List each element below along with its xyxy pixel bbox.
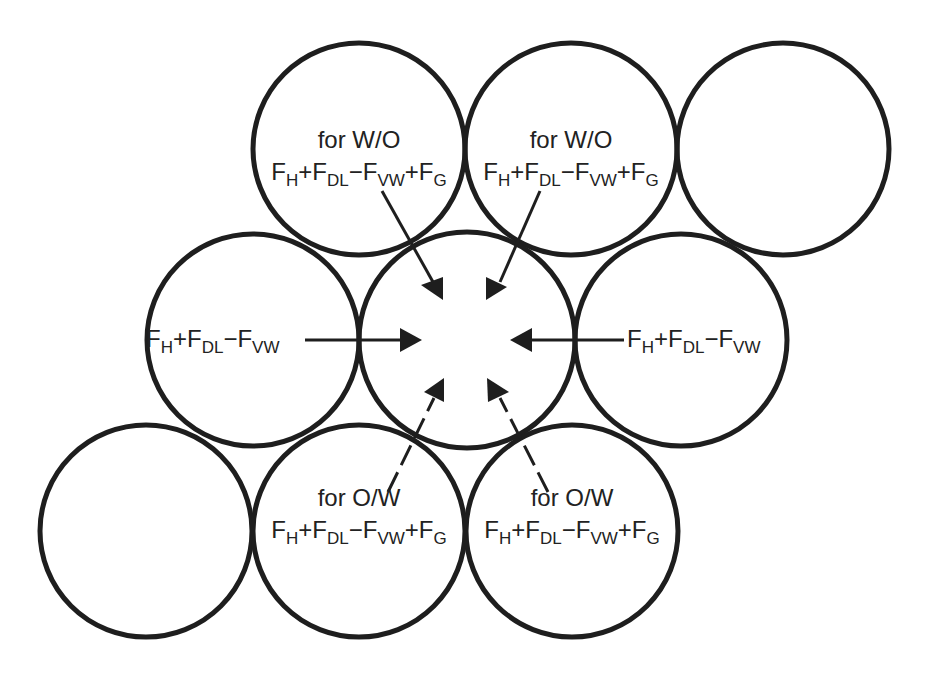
- formula-symbol: F: [363, 516, 378, 543]
- formula-subscript: DL: [327, 529, 349, 548]
- formula-operator: +: [617, 158, 631, 185]
- formula-symbol: F: [668, 325, 683, 352]
- arrow-bottom-right-icon: [487, 378, 548, 492]
- formula-subscript: DL: [540, 529, 562, 548]
- label-bottom-right-formula: FH+FDL−FVW+FG​: [484, 516, 659, 548]
- formula-symbol: F: [631, 158, 646, 185]
- formula-operator: +: [511, 516, 525, 543]
- formula-symbol: F: [718, 325, 733, 352]
- formula-symbol: F: [524, 158, 539, 185]
- label-bottom-left-formula: FH+FDL−FVW+FG​: [271, 516, 446, 548]
- formula-symbol: F: [312, 158, 327, 185]
- formula-subscript: G: [433, 171, 446, 190]
- formula-subscript: G: [645, 171, 658, 190]
- formula-symbol: F: [146, 325, 161, 352]
- formula-subscript: H: [286, 529, 298, 548]
- formula-symbol: F: [575, 158, 590, 185]
- formula-operator: +: [298, 516, 312, 543]
- formula-subscript: DL: [539, 171, 561, 190]
- formula-symbol: F: [312, 516, 327, 543]
- formula-symbol: F: [363, 158, 378, 185]
- formula-subscript: VW: [733, 338, 760, 357]
- formula-symbol: F: [237, 325, 252, 352]
- formula-symbol: F: [632, 516, 647, 543]
- formula-operator: +: [405, 158, 419, 185]
- formula-subscript: H: [161, 338, 173, 357]
- formula-subscript: VW: [252, 338, 279, 357]
- formula-operator: +: [618, 516, 632, 543]
- formula-symbol: F: [525, 516, 540, 543]
- label-middle-left-formula: FH+FDL−FVW​: [146, 325, 279, 357]
- particle-top-right: [677, 43, 889, 255]
- label-top-left-formula: FH+FDL−FVW+FG​: [271, 158, 446, 190]
- formula-operator: −: [349, 516, 363, 543]
- label-middle-right-formula: FH+FDL−FVW​: [627, 325, 760, 357]
- formula-operator: +: [405, 516, 419, 543]
- formula-symbol: F: [271, 158, 286, 185]
- formula-subscript: H: [498, 171, 510, 190]
- label-top-right-condition: for W/O: [530, 126, 613, 153]
- formula-operator: −: [704, 325, 718, 352]
- formula-operator: +: [298, 158, 312, 185]
- label-top-left-condition: for W/O: [318, 126, 401, 153]
- formula-subscript: H: [642, 338, 654, 357]
- formula-symbol: F: [484, 516, 499, 543]
- formula-symbol: F: [187, 325, 202, 352]
- formula-operator: −: [561, 158, 575, 185]
- label-bottom-left-condition: for O/W: [318, 484, 401, 511]
- formula-subscript: H: [499, 529, 511, 548]
- arrow-middle-right-icon: [510, 328, 624, 352]
- formula-subscript: VW: [377, 529, 404, 548]
- particle-packing-diagram: for W/O FH+FDL−FVW+FG​ for W/O FH+FDL−FV…: [0, 0, 925, 674]
- formula-symbol: F: [483, 158, 498, 185]
- label-top-right-formula: FH+FDL−FVW+FG​: [483, 158, 658, 190]
- formula-operator: −: [223, 325, 237, 352]
- formula-subscript: DL: [683, 338, 705, 357]
- arrow-middle-left-icon: [305, 328, 422, 352]
- formula-symbol: F: [419, 516, 434, 543]
- particle-bottom-left: [40, 425, 252, 637]
- formula-subscript: VW: [377, 171, 404, 190]
- formula-symbol: F: [627, 325, 642, 352]
- formula-symbol: F: [576, 516, 591, 543]
- label-bottom-right-condition: for O/W: [531, 484, 614, 511]
- formula-operator: +: [510, 158, 524, 185]
- formula-symbol: F: [271, 516, 286, 543]
- formula-symbol: F: [419, 158, 434, 185]
- formula-operator: +: [654, 325, 668, 352]
- formula-subscript: G: [433, 529, 446, 548]
- formula-subscript: DL: [327, 171, 349, 190]
- formula-subscript: DL: [202, 338, 224, 357]
- formula-subscript: VW: [590, 529, 617, 548]
- formula-subscript: VW: [589, 171, 616, 190]
- formula-operator: −: [349, 158, 363, 185]
- arrow-top-left-icon: [382, 191, 443, 300]
- formula-subscript: G: [646, 529, 659, 548]
- formula-operator: +: [173, 325, 187, 352]
- formula-subscript: H: [286, 171, 298, 190]
- formula-operator: −: [562, 516, 576, 543]
- arrow-bottom-left-icon: [388, 378, 444, 492]
